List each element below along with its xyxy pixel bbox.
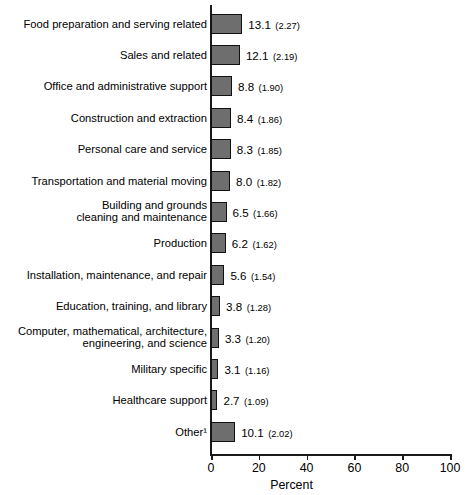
category-label: Production (2, 237, 207, 250)
value-label: 8.4 (237, 112, 253, 125)
standard-error-label: (2.19) (273, 51, 298, 62)
value-label-group: 3.3 (1.20) (225, 329, 270, 347)
category-label: Education, training, and library (2, 300, 207, 313)
category-label: Computer, mathematical, architecture, en… (2, 325, 207, 350)
bar (211, 359, 218, 379)
standard-error-label: (1.62) (252, 239, 277, 250)
x-axis-tick (307, 454, 309, 460)
value-label: 6.2 (232, 237, 248, 250)
bar (211, 45, 240, 65)
value-label-group: 10.1 (2.02) (241, 423, 293, 441)
x-axis-tick-label: 40 (300, 461, 314, 475)
value-label: 3.3 (225, 332, 241, 345)
bar (211, 296, 220, 316)
standard-error-label: (1.16) (245, 365, 270, 376)
bar (211, 171, 230, 191)
bar-row: Transportation and material moving8.0 (1… (0, 165, 465, 196)
bar (211, 139, 231, 159)
x-axis-tick-label: 100 (440, 461, 461, 475)
category-label: Construction and extraction (2, 111, 207, 124)
category-label: Military specific (2, 363, 207, 376)
value-label: 3.8 (226, 300, 242, 313)
x-axis-tick-label: 60 (347, 461, 361, 475)
bar-row: Office and administrative support8.8 (1.… (0, 71, 465, 102)
bar-row: Personal care and service8.3 (1.85) (0, 134, 465, 165)
value-label-group: 8.4 (1.86) (237, 109, 282, 127)
x-axis-tick (450, 454, 452, 460)
standard-error-label: (2.02) (268, 428, 293, 439)
value-label-group: 8.8 (1.90) (238, 77, 283, 95)
bar-row: Military specific3.1 (1.16) (0, 353, 465, 384)
standard-error-label: (1.85) (257, 145, 282, 156)
value-label: 8.8 (238, 80, 254, 93)
value-label: 5.6 (230, 269, 246, 282)
x-axis-tick (354, 454, 356, 460)
value-label-group: 6.2 (1.62) (232, 234, 277, 252)
category-label: Building and grounds cleaning and mainte… (2, 199, 207, 224)
category-label: Transportation and material moving (2, 174, 207, 187)
bar (211, 76, 232, 96)
x-axis-tick (259, 454, 261, 460)
category-label: Installation, maintenance, and repair (2, 268, 207, 281)
value-label: 2.7 (223, 394, 239, 407)
value-label-group: 13.1 (2.27) (248, 15, 300, 33)
category-label: Food preparation and serving related (2, 17, 207, 30)
value-label: 6.5 (233, 206, 249, 219)
value-label: 3.1 (224, 363, 240, 376)
standard-error-label: (1.82) (257, 177, 282, 188)
bar (211, 233, 226, 253)
value-label-group: 2.7 (1.09) (223, 391, 268, 409)
bar-row: Education, training, and library3.8 (1.2… (0, 291, 465, 322)
value-label: 10.1 (241, 426, 264, 439)
category-label: Personal care and service (2, 143, 207, 156)
category-label: Sales and related (2, 49, 207, 62)
bar (211, 265, 224, 285)
x-axis-tick (402, 454, 404, 460)
bar-rows: Food preparation and serving related13.1… (0, 0, 465, 455)
standard-error-label: (1.28) (247, 302, 272, 313)
bar-row: Computer, mathematical, architecture, en… (0, 322, 465, 353)
x-axis-tick-label: 80 (395, 461, 409, 475)
standard-error-label: (1.09) (244, 396, 269, 407)
category-label: Healthcare support (2, 394, 207, 407)
x-axis-title: Percent (0, 478, 465, 492)
bar-row: Building and grounds cleaning and mainte… (0, 196, 465, 227)
bar-row: Sales and related12.1 (2.19) (0, 39, 465, 70)
bar-row: Construction and extraction8.4 (1.86) (0, 102, 465, 133)
bar-row: Other¹10.1 (2.02) (0, 416, 465, 447)
standard-error-label: (1.90) (259, 82, 284, 93)
horizontal-bar-chart: Food preparation and serving related13.1… (0, 0, 465, 495)
category-label: Other¹ (2, 425, 207, 438)
bar (211, 108, 231, 128)
bar-row: Installation, maintenance, and repair5.6… (0, 259, 465, 290)
bar (211, 390, 217, 410)
x-axis-tick-label: 0 (208, 461, 215, 475)
x-axis-tick-label: 20 (252, 461, 266, 475)
value-label-group: 5.6 (1.54) (230, 266, 275, 284)
standard-error-label: (1.66) (253, 208, 278, 219)
value-label: 12.1 (246, 49, 269, 62)
value-label-group: 6.5 (1.66) (233, 203, 278, 221)
x-axis-tick (211, 454, 213, 460)
bar (211, 14, 242, 34)
value-label-group: 8.0 (1.82) (236, 172, 281, 190)
bar-row: Production6.2 (1.62) (0, 228, 465, 259)
value-label-group: 3.8 (1.28) (226, 297, 271, 315)
plot-area: Food preparation and serving related13.1… (0, 0, 465, 495)
value-label-group: 12.1 (2.19) (246, 46, 298, 64)
bar (211, 422, 235, 442)
bar-row: Healthcare support2.7 (1.09) (0, 385, 465, 416)
standard-error-label: (1.54) (251, 271, 276, 282)
x-axis-title-label: Percent (270, 478, 313, 492)
standard-error-label: (2.27) (275, 20, 300, 31)
bar-row: Food preparation and serving related13.1… (0, 8, 465, 39)
category-label: Office and administrative support (2, 80, 207, 93)
value-label: 13.1 (248, 18, 271, 31)
standard-error-label: (1.20) (245, 334, 270, 345)
bar (211, 202, 227, 222)
standard-error-label: (1.86) (258, 114, 283, 125)
value-label-group: 8.3 (1.85) (237, 140, 282, 158)
value-label-group: 3.1 (1.16) (224, 360, 269, 378)
value-label: 8.3 (237, 143, 253, 156)
bar (211, 328, 219, 348)
